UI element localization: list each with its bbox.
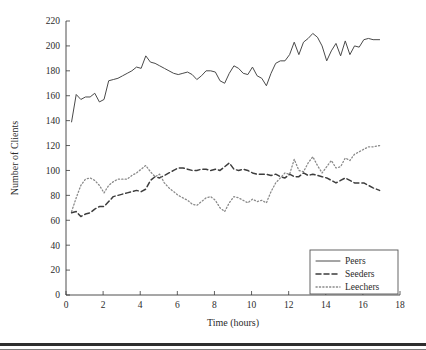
chart-legend[interactable]: PeersSeedersLeechers [310,250,398,294]
y-axis-title: Number of Clients [9,121,20,196]
y-tick-label: 40 [51,241,61,251]
x-tick-label: 16 [358,300,368,310]
y-tick-label: 220 [46,16,61,26]
y-tick-label: 180 [46,66,61,76]
legend-label-peers[interactable]: Peers [345,256,366,266]
y-tick-label: 60 [51,216,61,226]
x-tick-label: 8 [212,300,217,310]
y-tick-label: 200 [46,41,61,51]
legend-label-seeders[interactable]: Seeders [345,269,375,279]
footer-rule [0,343,426,346]
line-chart: 0204060801001201401601802002200246810121… [0,0,426,350]
y-tick-label: 120 [46,141,61,151]
chart-background [0,0,426,350]
x-tick-label: 18 [395,300,405,310]
x-tick-label: 10 [247,300,257,310]
x-tick-label: 6 [175,300,180,310]
y-tick-label: 100 [46,166,61,176]
y-tick-label: 140 [46,116,61,126]
x-tick-label: 12 [284,300,294,310]
y-tick-label: 0 [55,290,60,300]
x-tick-label: 0 [64,300,69,310]
y-tick-label: 80 [51,191,61,201]
x-tick-label: 4 [138,300,143,310]
x-axis-title: Time (hours) [207,317,259,329]
legend-label-leechers[interactable]: Leechers [345,282,380,292]
figure-container: 0204060801001201401601802002200246810121… [0,0,426,350]
x-tick-label: 14 [321,300,331,310]
y-tick-label: 160 [46,91,61,101]
x-tick-label: 2 [101,300,106,310]
y-tick-label: 20 [51,265,61,275]
